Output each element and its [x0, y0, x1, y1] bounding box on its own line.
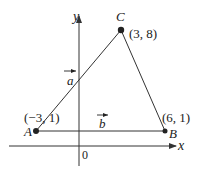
point-c-coords: (3, 8) [129, 26, 157, 41]
point-a-label: A [23, 124, 32, 139]
point-a-coords: (−3, 1) [24, 110, 60, 125]
side-cb [121, 30, 165, 131]
point-b-coords: (6, 1) [162, 110, 190, 125]
vector-b-label: b [99, 116, 106, 131]
triangle-vector-diagram: y x 0 A B C (−3, 1) (6, 1) (3, 8) a b [0, 0, 207, 169]
point-a [33, 128, 39, 134]
point-b-label: B [169, 126, 177, 141]
point-c [118, 27, 124, 33]
point-c-label: C [116, 9, 125, 24]
point-b [163, 129, 168, 134]
x-axis-label: x [177, 138, 185, 153]
vector-a-label: a [67, 73, 74, 88]
y-axis-label: y [71, 9, 80, 24]
origin-label: 0 [82, 148, 88, 162]
